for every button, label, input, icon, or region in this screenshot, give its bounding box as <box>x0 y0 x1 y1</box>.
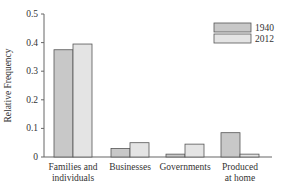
legend-label: 1940 <box>255 23 274 33</box>
bar-2012 <box>185 144 204 157</box>
x-tick-label: at home <box>225 173 255 183</box>
x-tick-label: Produced <box>222 162 258 172</box>
legend-swatch-1940 <box>214 23 251 32</box>
legend-swatch-2012 <box>214 34 251 43</box>
x-tick-label: Governments <box>159 162 210 172</box>
x-tick-label: individuals <box>52 173 95 183</box>
legend-label: 2012 <box>255 34 274 44</box>
bar-chart: 00.10.20.30.40.5Relative FrequencyFamili… <box>0 0 281 188</box>
y-tick-label: 0 <box>33 152 38 162</box>
x-tick-label: Families and <box>49 162 98 172</box>
bar-2012 <box>73 44 92 157</box>
y-tick-label: 0.5 <box>26 9 38 19</box>
bar-2012 <box>240 154 259 157</box>
bar-1940 <box>166 154 185 157</box>
chart-canvas: 00.10.20.30.40.5Relative FrequencyFamili… <box>0 0 281 188</box>
y-axis-label: Relative Frequency <box>3 48 13 122</box>
bar-1940 <box>221 133 240 157</box>
bar-1940 <box>54 50 73 157</box>
y-tick-label: 0.3 <box>26 66 38 76</box>
bar-1940 <box>111 148 130 157</box>
x-tick-label: Businesses <box>109 162 151 172</box>
bar-2012 <box>130 143 149 157</box>
y-tick-label: 0.2 <box>26 95 38 105</box>
y-tick-label: 0.4 <box>26 38 38 48</box>
y-tick-label: 0.1 <box>26 123 38 133</box>
